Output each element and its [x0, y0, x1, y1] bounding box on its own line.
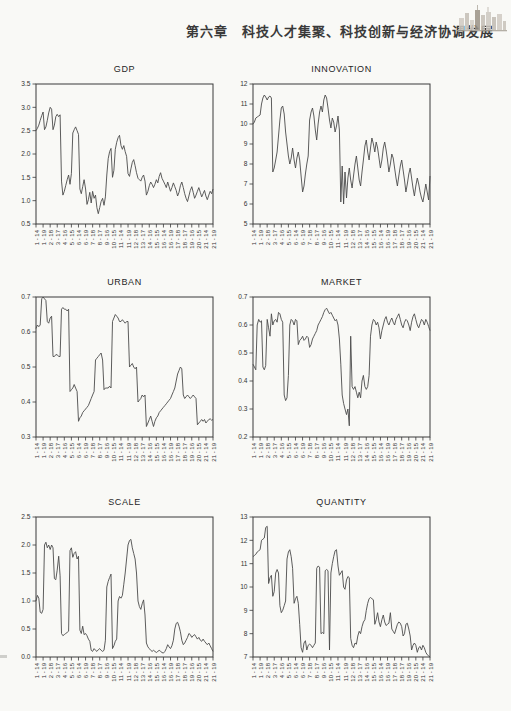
x-tick-label: 6 - 14	[76, 442, 82, 458]
x-tick-label: 20 - 15	[413, 442, 419, 461]
plot-frame	[36, 84, 213, 224]
x-tick-label: 4 - 16	[62, 662, 68, 678]
series-line	[36, 107, 213, 213]
x-tick-label: 18 - 17	[399, 662, 405, 681]
x-tick-label: 5 - 15	[286, 662, 292, 678]
y-tick-label: 10	[240, 583, 248, 590]
x-tick-label: 20 - 15	[196, 229, 202, 248]
x-tick-label: 13 - 17	[357, 229, 363, 248]
x-tick-label: 7 - 18	[307, 442, 313, 458]
y-tick-label: 2.0	[21, 541, 30, 548]
x-tick-label: 4 - 16	[62, 442, 68, 458]
x-tick-label: 5 - 15	[286, 442, 292, 458]
x-tick-label: 11 - 19	[126, 662, 132, 681]
y-tick-label: 1.0	[21, 197, 30, 204]
x-tick-label: 16 - 14	[161, 442, 167, 461]
x-tick-label: 21 - 14	[203, 662, 209, 681]
plot-frame	[253, 297, 430, 437]
x-tick-label: 6 - 14	[293, 229, 299, 245]
x-tick-label: 16 - 19	[168, 442, 174, 461]
chart-title: SCALE	[108, 497, 141, 507]
x-tick-label: 1 - 14	[251, 229, 257, 245]
x-tick-label: 18 - 17	[182, 662, 188, 681]
x-tick-label: 12 - 18	[133, 662, 139, 681]
x-tick-label: 12 - 18	[133, 229, 139, 248]
y-tick-label: 0.6	[21, 328, 30, 335]
x-tick-label: 11 - 14	[335, 662, 341, 681]
y-tick-label: 0.5	[21, 363, 30, 370]
x-tick-label: 14 - 16	[364, 229, 370, 248]
series-line	[253, 95, 430, 204]
y-tick-label: 2.5	[21, 513, 30, 520]
x-tick-label: 1 - 14	[251, 442, 257, 458]
y-tick-label: 0.4	[238, 377, 247, 384]
y-tick-label: 9	[244, 607, 248, 614]
y-tick-label: 11	[241, 560, 248, 567]
x-tick-label: 5 - 15	[69, 442, 75, 458]
y-tick-label: 7	[244, 653, 248, 660]
x-tick-label: 1 - 19	[41, 229, 47, 245]
x-tick-label: 10 - 15	[111, 229, 117, 248]
y-tick-label: 12	[240, 537, 248, 544]
x-tick-label: 21 - 19	[428, 662, 434, 681]
x-tick-label: 13 - 17	[140, 662, 146, 681]
x-tick-label: 21 - 14	[420, 229, 426, 248]
x-tick-label: 2 - 18	[265, 442, 271, 458]
x-tick-label: 5 - 15	[286, 229, 292, 245]
x-tick-label: 18 - 17	[399, 442, 405, 461]
x-tick-label: 1 - 14	[34, 442, 40, 458]
y-tick-label: 0.4	[21, 398, 30, 405]
x-tick-label: 19 - 16	[406, 229, 412, 248]
y-tick-label: 11	[241, 100, 248, 107]
x-tick-label: 10 - 15	[111, 442, 117, 461]
x-tick-label: 14 - 16	[147, 442, 153, 461]
y-tick-label: 0.3	[21, 433, 30, 440]
x-tick-label: 20 - 15	[196, 442, 202, 461]
x-tick-label: 18 - 17	[182, 442, 188, 461]
y-tick-label: 3.5	[21, 80, 30, 87]
x-tick-label: 1 - 19	[41, 662, 47, 678]
x-tick-label: 16 - 14	[378, 662, 384, 681]
chart-title: QUANTITY	[316, 497, 366, 507]
chart-scale: SCALE0.00.51.01.52.02.51 - 141 - 192 - 1…	[0, 493, 240, 705]
x-tick-label: 3 - 17	[272, 229, 278, 245]
x-tick-label: 16 - 14	[378, 229, 384, 248]
x-tick-label: 10 - 15	[328, 442, 334, 461]
x-tick-label: 17 - 18	[392, 442, 398, 461]
x-tick-label: 7 - 18	[307, 229, 313, 245]
x-tick-label: 12 - 18	[350, 442, 356, 461]
x-tick-label: 11 - 19	[343, 229, 349, 248]
x-tick-label: 21 - 19	[211, 662, 217, 681]
x-tick-label: 7 - 18	[90, 229, 96, 245]
y-tick-label: 0.7	[21, 293, 30, 300]
plot-frame	[36, 517, 213, 657]
x-tick-label: 4 - 16	[279, 229, 285, 245]
x-tick-label: 1 - 14	[34, 662, 40, 678]
x-tick-label: 14 - 16	[364, 662, 370, 681]
x-tick-label: 11 - 14	[118, 662, 124, 681]
x-tick-label: 4 - 16	[279, 442, 285, 458]
x-tick-label: 6 - 14	[293, 442, 299, 458]
x-tick-label: 13 - 17	[357, 662, 363, 681]
chart-title: INNOVATION	[311, 64, 372, 74]
x-tick-label: 21 - 19	[211, 229, 217, 248]
x-tick-label: 8 - 17	[97, 442, 103, 458]
chart-innovation: INNOVATION567891011121 - 141 - 192 - 183…	[217, 60, 457, 272]
chart-title: MARKET	[321, 277, 362, 287]
y-tick-label: 0.2	[238, 433, 247, 440]
x-tick-label: 20 - 15	[413, 229, 419, 248]
y-tick-label: 6	[244, 200, 248, 207]
y-tick-label: 8	[244, 630, 248, 637]
x-tick-label: 1 - 14	[251, 662, 257, 678]
x-tick-label: 3 - 17	[272, 662, 278, 678]
x-tick-label: 19 - 16	[189, 662, 195, 681]
chapter-running-head: 第六章 科技人才集聚、科技创新与经济协调发展	[186, 21, 494, 40]
y-tick-label: 9	[244, 140, 248, 147]
x-tick-label: 15 - 15	[154, 662, 160, 681]
x-tick-label: 21 - 14	[203, 229, 209, 248]
y-tick-label: 10	[240, 120, 248, 127]
y-tick-label: 0.5	[21, 220, 30, 227]
x-tick-label: 2 - 18	[265, 229, 271, 245]
x-tick-label: 14 - 16	[147, 229, 153, 248]
x-tick-label: 9 - 16	[104, 442, 110, 458]
